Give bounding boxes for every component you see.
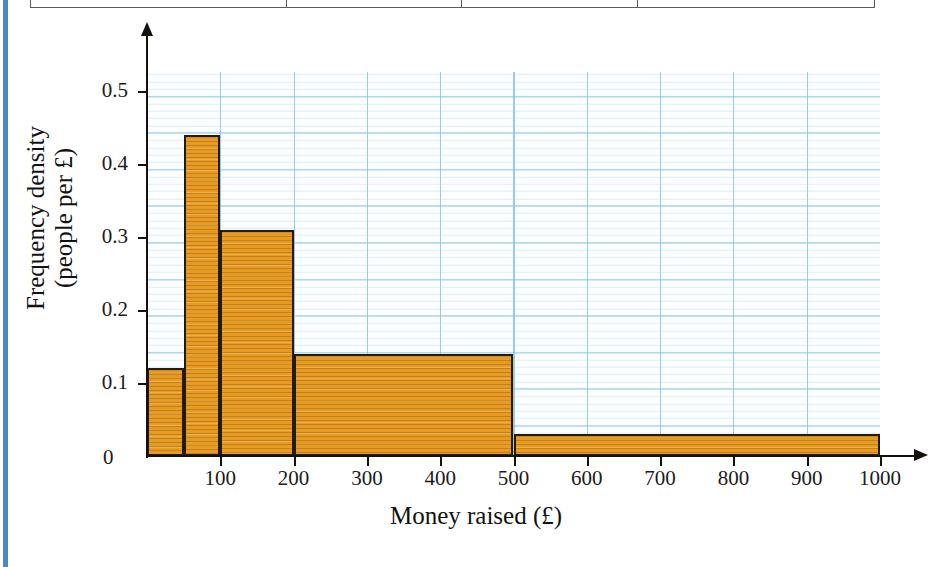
x-axis-line	[146, 455, 921, 457]
x-axis-tick	[440, 456, 442, 466]
y-axis-line	[146, 32, 148, 458]
y-axis-tick	[138, 237, 148, 239]
histogram-bar	[147, 368, 184, 456]
x-axis-tick	[587, 456, 589, 466]
x-axis-tick-label: 500	[474, 468, 554, 489]
histogram-bar	[514, 434, 881, 456]
x-axis-tick-label: 400	[400, 468, 480, 489]
y-axis-tick-label: 0.1	[68, 372, 128, 393]
x-axis-tick-label: 1000	[840, 468, 920, 489]
x-axis-tick	[294, 456, 296, 466]
x-axis-tick	[880, 456, 882, 466]
x-axis-tick	[514, 456, 516, 466]
histogram-bar	[294, 354, 514, 456]
origin-label: 0	[103, 447, 114, 468]
histogram-bar	[220, 230, 293, 456]
x-axis-tick	[733, 456, 735, 466]
x-axis-tick	[367, 456, 369, 466]
y-axis-tick	[138, 383, 148, 385]
x-axis-tick	[660, 456, 662, 466]
x-axis-tick-label: 600	[547, 468, 627, 489]
y-axis-title-line2: (people per £)	[50, 68, 78, 368]
x-axis-tick-label: 800	[693, 468, 773, 489]
x-axis-tick-label: 700	[620, 468, 700, 489]
x-axis-tick	[220, 456, 222, 466]
y-axis-tick	[138, 91, 148, 93]
y-axis-title-line1: Frequency density	[22, 68, 50, 368]
x-axis-tick-label: 100	[180, 468, 260, 489]
y-axis-tick	[138, 310, 148, 312]
x-axis-arrow-icon	[914, 449, 928, 461]
x-axis-tick-label: 900	[767, 468, 847, 489]
x-axis-tick-label: 300	[327, 468, 407, 489]
x-axis-tick	[807, 456, 809, 466]
histogram-bar	[184, 135, 221, 456]
x-axis-tick-label: 200	[254, 468, 334, 489]
y-axis-arrow-icon	[141, 22, 153, 36]
x-axis-title: Money raised (£)	[0, 502, 952, 530]
histogram-chart: 0.10.20.30.40.51002003004005006007008009…	[0, 0, 952, 567]
y-axis-tick	[138, 164, 148, 166]
y-axis-title: Frequency density (people per £)	[22, 68, 78, 368]
